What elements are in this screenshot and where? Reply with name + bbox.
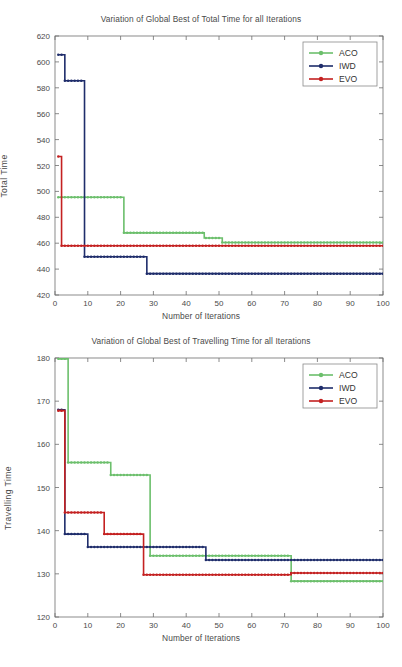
x-tick-label: 30 bbox=[149, 299, 158, 308]
y-tick-label: 580 bbox=[37, 84, 51, 93]
legend-label-evo: EVO bbox=[339, 74, 357, 84]
page-footer-artifact bbox=[0, 657, 402, 667]
y-tick-label: 120 bbox=[37, 613, 51, 622]
chart-travelling-time: Variation of Global Best of Travelling T… bbox=[0, 330, 402, 655]
x-tick-label: 90 bbox=[346, 621, 355, 630]
figure-page: Variation of Global Best of Total Time f… bbox=[0, 0, 402, 667]
y-tick-label: 180 bbox=[37, 354, 51, 363]
x-tick-label: 0 bbox=[53, 621, 58, 630]
y-tick-label: 500 bbox=[37, 187, 51, 196]
y-tick-label: 150 bbox=[37, 484, 51, 493]
y-tick-label: 160 bbox=[37, 440, 51, 449]
y-tick-label: 140 bbox=[37, 527, 51, 536]
x-tick-label: 60 bbox=[247, 621, 256, 630]
series-markers-iwd bbox=[57, 409, 384, 562]
x-tick-label: 10 bbox=[83, 299, 92, 308]
x-tick-label: 50 bbox=[215, 621, 224, 630]
x-tick-label: 100 bbox=[376, 621, 390, 630]
x-tick-label: 20 bbox=[116, 621, 125, 630]
chart-title-travelling-time: Variation of Global Best of Travelling T… bbox=[0, 336, 402, 346]
x-tick-label: 0 bbox=[53, 299, 58, 308]
legend-label-iwd: IWD bbox=[339, 383, 356, 393]
legend-label-aco: ACO bbox=[339, 370, 358, 380]
x-axis-label-total-time: Number of Iterations bbox=[0, 311, 402, 321]
y-axis-label-travelling-time: Travelling Time bbox=[3, 466, 13, 530]
series-markers-evo bbox=[57, 155, 384, 247]
legend-label-iwd: IWD bbox=[339, 61, 356, 71]
series-line-evo bbox=[58, 156, 383, 245]
plot-area-total-time: 0102030405060708090100420440460480500520… bbox=[0, 8, 402, 333]
y-tick-label: 440 bbox=[37, 265, 51, 274]
x-tick-label: 70 bbox=[280, 621, 289, 630]
y-tick-label: 480 bbox=[37, 213, 51, 222]
series-line-iwd bbox=[58, 55, 383, 274]
x-tick-label: 50 bbox=[215, 299, 224, 308]
y-tick-label: 460 bbox=[37, 239, 51, 248]
series-markers-aco bbox=[57, 196, 384, 244]
y-tick-label: 620 bbox=[37, 32, 51, 41]
series-line-iwd bbox=[58, 410, 383, 560]
series-line-evo bbox=[58, 411, 383, 575]
y-tick-label: 520 bbox=[37, 162, 51, 171]
x-tick-label: 40 bbox=[182, 621, 191, 630]
chart-title-total-time: Variation of Global Best of Total Time f… bbox=[0, 14, 402, 24]
series-markers-iwd bbox=[57, 54, 384, 275]
x-tick-label: 20 bbox=[116, 299, 125, 308]
y-tick-label: 600 bbox=[37, 58, 51, 67]
y-axis-label-total-time: Total Time bbox=[0, 154, 9, 197]
x-tick-label: 30 bbox=[149, 621, 158, 630]
legend: ACOIWDEVO bbox=[303, 364, 377, 408]
x-tick-label: 100 bbox=[376, 299, 390, 308]
y-tick-label: 560 bbox=[37, 110, 51, 119]
series-line-aco bbox=[58, 197, 383, 242]
y-tick-label: 130 bbox=[37, 570, 51, 579]
x-tick-label: 10 bbox=[83, 621, 92, 630]
chart-total-time: Variation of Global Best of Total Time f… bbox=[0, 8, 402, 333]
plot-area-travelling-time: 0102030405060708090100120130140150160170… bbox=[0, 330, 402, 655]
series-markers-evo bbox=[57, 409, 384, 576]
x-axis-label-travelling-time: Number of Iterations bbox=[0, 633, 402, 643]
y-tick-label: 420 bbox=[37, 291, 51, 300]
x-tick-label: 80 bbox=[313, 299, 322, 308]
x-tick-label: 90 bbox=[346, 299, 355, 308]
x-tick-label: 60 bbox=[247, 299, 256, 308]
x-tick-label: 40 bbox=[182, 299, 191, 308]
legend: ACOIWDEVO bbox=[303, 42, 377, 86]
legend-label-aco: ACO bbox=[339, 48, 358, 58]
y-tick-label: 170 bbox=[37, 397, 51, 406]
x-tick-label: 70 bbox=[280, 299, 289, 308]
x-tick-label: 80 bbox=[313, 621, 322, 630]
y-tick-label: 540 bbox=[37, 136, 51, 145]
legend-label-evo: EVO bbox=[339, 396, 357, 406]
